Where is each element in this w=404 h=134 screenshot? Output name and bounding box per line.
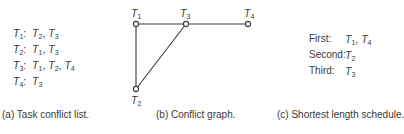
caption-b: (b) Conflict graph. — [156, 109, 235, 120]
schedule-label-third: Third: — [309, 65, 335, 76]
node-label-t2: T2 — [131, 94, 141, 107]
node-label-t3: T3 — [180, 7, 190, 20]
node-label-t1: T1 — [131, 7, 141, 20]
schedule-label-second: Second: — [309, 49, 346, 60]
schedule-label-first: First: — [309, 33, 331, 44]
schedule-value-second: T2 — [345, 49, 355, 62]
node-t3 — [183, 21, 188, 26]
caption-c: (c) Shortest length schedule. — [277, 109, 404, 120]
node-t2 — [133, 86, 138, 91]
schedule-value-third: T3 — [345, 65, 355, 78]
node-label-t4: T4 — [244, 7, 254, 20]
node-t4 — [245, 21, 250, 26]
edge-t2-t3 — [136, 24, 186, 89]
schedule-value-first: T1, T4 — [345, 33, 372, 46]
node-t1 — [133, 21, 138, 26]
